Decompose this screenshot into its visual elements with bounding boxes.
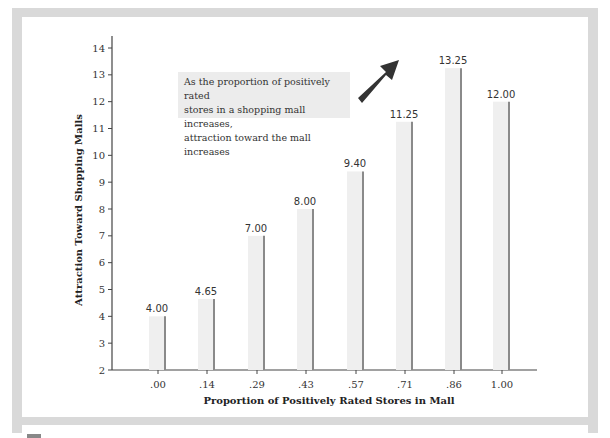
y-tick-label: 8 [99,204,105,215]
bar [347,171,363,370]
y-axis-title: Attraction Toward Shopping Malls [73,114,84,307]
bar [445,68,461,370]
x-tick-label: .57 [348,379,364,390]
bar [248,236,264,370]
x-tick-label: .00 [150,379,166,390]
x-tick-label: 1.00 [491,379,513,390]
x-axis-title: Proportion of Positively Rated Stores in… [203,395,454,406]
value-label: 7.00 [245,223,267,234]
value-label: 4.00 [146,303,168,314]
y-tick-label: 4 [99,311,105,322]
y-tick-label: 11 [92,123,105,134]
bar [493,102,509,370]
y-tick-label: 10 [92,150,105,161]
y-tick-label: 9 [99,177,105,188]
annotation-box: As the proportion of positively rated st… [178,72,350,118]
y-tick-label: 2 [99,365,105,376]
value-label: 8.00 [294,196,316,207]
bar [149,316,165,370]
y-tick-label: 14 [92,43,105,54]
value-label: 9.40 [344,158,366,169]
value-label: 11.25 [390,109,419,120]
bar-chart: 2345678910111213144.00.004.65.147.00.298… [0,0,610,438]
annotation-line-1: As the proportion of positively rated [184,75,344,103]
value-label: 4.65 [195,286,217,297]
x-tick-label: .14 [199,379,215,390]
y-tick-label: 13 [92,69,105,80]
y-tick-label: 7 [99,230,105,241]
y-tick-label: 12 [92,96,105,107]
value-label: 13.25 [439,55,468,66]
annotation-line-3: attraction toward the mall increases [184,131,344,159]
bar [198,299,214,370]
x-tick-label: .29 [249,379,265,390]
x-tick-label: .71 [397,379,413,390]
bar [297,209,313,370]
arrow-up-right-icon [358,60,399,103]
y-tick-label: 3 [99,338,105,349]
x-tick-label: .43 [298,379,314,390]
y-tick-label: 6 [99,257,105,268]
annotation-line-2: stores in a shopping mall increases, [184,103,344,131]
value-label: 12.00 [487,89,516,100]
x-tick-label: .86 [446,379,462,390]
y-tick-label: 5 [99,284,105,295]
bar [396,122,412,370]
